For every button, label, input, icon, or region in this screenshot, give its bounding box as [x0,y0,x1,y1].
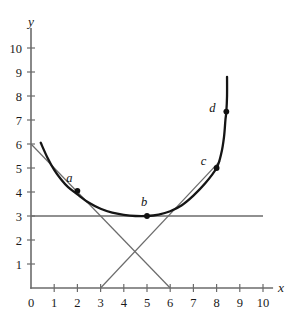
point-label-b: b [141,195,147,209]
y-axis-label: y [26,14,34,29]
curve-layer [41,77,227,216]
data-point-d [223,109,229,115]
x-tick-label: 4 [121,296,128,310]
plot-svg: abcd 12345678910012345678910 y x [0,0,297,315]
x-tick-label: 7 [190,296,196,310]
y-tick-label: 1 [16,258,22,272]
tick-labels-layer: 12345678910012345678910 [10,42,270,311]
point-label-c: c [201,154,207,168]
y-tick-label: 5 [16,162,22,176]
x-tick-label: 5 [144,296,150,310]
x-tick-label: 10 [257,296,270,310]
x-tick-label: 9 [237,296,243,310]
y-tick-label: 10 [10,42,23,56]
x-tick-label: 2 [74,296,80,310]
x-tick-label: 3 [97,296,103,310]
x-axis-label: x [277,280,284,295]
point-label-a: a [66,171,72,185]
y-tick-label: 4 [16,186,23,200]
data-point-b [144,213,150,219]
y-tick-label: 7 [16,114,22,128]
axes-group [27,29,272,292]
x-tick-label: 6 [167,296,173,310]
point-label-d: d [209,101,216,115]
y-tick-label: 8 [16,90,22,104]
tangent-at-c [101,161,220,288]
function-curve [41,77,227,216]
x-tick-label: 0 [28,296,34,310]
y-tick-label: 3 [16,210,22,224]
x-tick-label: 8 [213,296,219,310]
data-points-layer: abcd [66,101,229,219]
y-tick-label: 6 [16,138,22,152]
x-tick-label: 1 [51,296,57,310]
graph-figure: abcd 12345678910012345678910 y x [0,0,297,315]
y-tick-label: 9 [16,66,22,80]
y-tick-label: 2 [16,234,22,248]
data-point-c [214,165,220,171]
data-point-a [75,188,81,194]
